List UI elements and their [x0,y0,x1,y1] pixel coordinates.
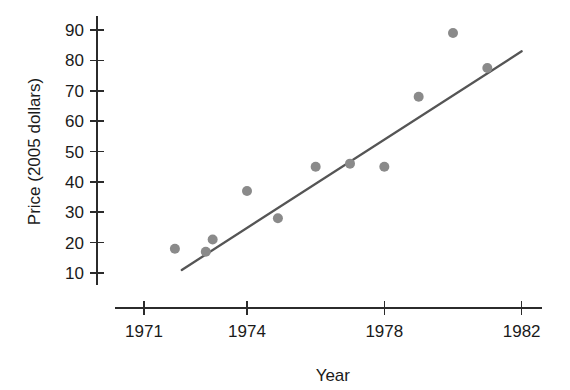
data-point [311,162,321,172]
y-axis-title: Price (2005 dollars) [25,78,44,225]
y-tick-label-50: 50 [65,143,84,162]
x-tick-label-1982: 1982 [503,322,541,341]
y-tick-label-90: 90 [65,21,84,40]
data-point [170,244,180,254]
x-tick-label-1978: 1978 [365,322,403,341]
data-point [448,28,458,38]
data-points [170,28,492,257]
x-axis: 1971197419781982 [115,301,542,341]
plot-canvas: 102030405060708090 1971197419781982 Year… [0,0,570,390]
y-tick-label-40: 40 [65,173,84,192]
y-tick-label-20: 20 [65,234,84,253]
y-axis: 102030405060708090 [65,16,104,285]
data-point [273,213,283,223]
data-point [345,159,355,169]
x-tick-label-1971: 1971 [125,322,163,341]
x-axis-title: Year [316,366,351,385]
data-point [482,63,492,73]
y-tick-label-30: 30 [65,203,84,222]
y-tick-label-70: 70 [65,82,84,101]
data-point [379,162,389,172]
y-tick-label-60: 60 [65,112,84,131]
scatter-chart: 102030405060708090 1971197419781982 Year… [0,0,570,390]
y-tick-label-10: 10 [65,264,84,283]
data-point [414,92,424,102]
data-point [208,235,218,245]
data-point [242,186,252,196]
data-point [201,247,211,257]
x-tick-label-1974: 1974 [228,322,266,341]
y-tick-label-80: 80 [65,51,84,70]
